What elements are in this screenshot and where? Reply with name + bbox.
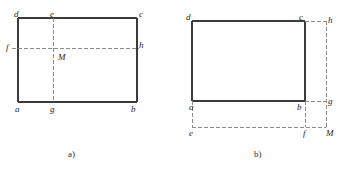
panel-a-label-c: c	[139, 10, 143, 19]
panel-b-label-e: e	[189, 129, 193, 138]
panel-b-label-d: d	[186, 13, 191, 22]
panel-a-label-a: a	[15, 105, 20, 114]
panel-b-label-M: M	[326, 129, 334, 138]
panel-b-label-a: a	[189, 103, 194, 112]
panel-a-caption: a)	[68, 150, 75, 159]
figure-canvas	[0, 0, 343, 173]
panel-a-label-f: f	[6, 43, 9, 52]
panel-b-label-f: f	[303, 129, 306, 138]
panel-b-label-b: b	[297, 103, 302, 112]
panel-a-label-d: d	[14, 10, 19, 19]
panel-b-label-g: g	[328, 97, 333, 106]
panel-a-label-M: M	[58, 53, 66, 62]
panel-a-lines	[12, 18, 139, 102]
panel-a-label-g: g	[50, 105, 55, 114]
panel-b-lines	[192, 21, 326, 127]
panel-a-label-b: b	[131, 105, 136, 114]
panel-a-label-e: e	[50, 10, 54, 19]
panel-a-label-h: h	[139, 41, 144, 50]
panel-b-label-h: h	[328, 16, 333, 25]
panel-b-caption: b)	[254, 150, 262, 159]
panel-b-label-c: c	[299, 13, 303, 22]
figure-container: decfhMagba)dchabgefMb)	[0, 0, 343, 173]
